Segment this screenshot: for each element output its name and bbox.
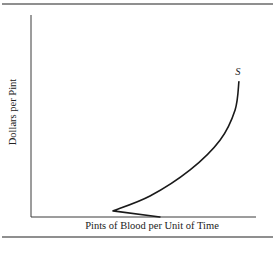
supply-curve-s	[113, 82, 239, 217]
x-axis-label: Pints of Blood per Unit of Time	[85, 220, 219, 231]
y-axis-label: Dollars per Pint	[7, 79, 18, 146]
supply-chart: S Pints of Blood per Unit of Time Dollar…	[0, 0, 275, 254]
series-label-s: S	[235, 66, 241, 77]
